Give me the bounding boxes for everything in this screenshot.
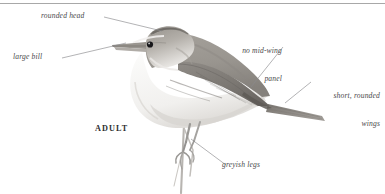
annotation-no-mid-wing-panel-line1: no mid-wing <box>216 46 282 55</box>
leader-greyish-legs <box>191 139 226 165</box>
annotation-no-mid-wing-panel-line2: panel <box>216 74 282 83</box>
annotation-no-mid-wing-panel: no mid-wing panel <box>216 28 282 102</box>
annotation-short-rounded-wings-line1: short, rounded <box>306 91 380 100</box>
annotation-short-rounded-wings: short, rounded wings <box>306 73 380 147</box>
plate-caption-adult: ADULT <box>95 124 128 133</box>
field-guide-plate: rounded head large bill no mid-wing pane… <box>0 0 385 194</box>
annotation-greyish-legs: greyish legs <box>222 160 260 169</box>
annotation-short-rounded-wings-line2: wings <box>306 119 380 128</box>
bird-bill <box>112 42 146 52</box>
leader-large-bill <box>62 43 126 58</box>
bird-eye <box>147 41 153 47</box>
annotation-large-bill: large bill <box>13 52 42 61</box>
annotation-rounded-head: rounded head <box>41 11 85 20</box>
leader-rounded-head <box>104 17 162 31</box>
